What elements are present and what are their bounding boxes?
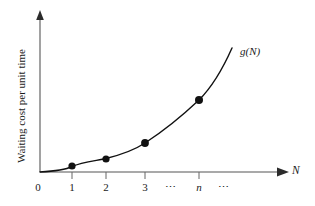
- curve-label-g-of-n: g(N): [240, 46, 260, 57]
- curve-g-of-n: [40, 48, 232, 172]
- x-tick-label-2: 2: [103, 182, 109, 193]
- x-tick-label-0: 0: [35, 182, 41, 193]
- data-point-n: [195, 96, 203, 104]
- data-point-2: [102, 155, 109, 162]
- x-tick-label-n: n: [196, 182, 202, 193]
- data-point-1: [68, 162, 75, 169]
- chart-figure: Waiting cost per unit time N g(N) 0 1 2 …: [0, 0, 315, 206]
- y-axis-title: Waiting cost per unit time: [16, 49, 27, 163]
- x-axis-ellipsis-left: ⋯: [165, 182, 177, 193]
- x-axis-ellipsis-right: ⋯: [218, 182, 230, 193]
- chart-plot-area: [0, 0, 315, 206]
- x-tick-label-3: 3: [142, 182, 148, 193]
- x-axis-title: N: [292, 165, 300, 177]
- y-axis-arrowhead: [36, 10, 44, 20]
- x-axis-arrowhead: [277, 168, 289, 177]
- data-point-3: [141, 139, 149, 147]
- x-tick-label-1: 1: [69, 182, 75, 193]
